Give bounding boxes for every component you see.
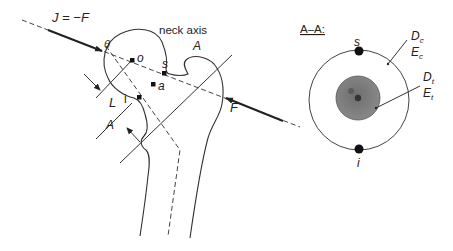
axes xyxy=(22,20,300,236)
section-line-a-a xyxy=(120,55,232,163)
joint-force-label: J = −F xyxy=(51,10,90,25)
section-center-marker xyxy=(355,95,361,101)
cortical-d-label: Dc xyxy=(411,29,424,45)
theta-label: θ xyxy=(104,38,110,50)
cortical-leader-dot xyxy=(387,63,389,65)
point-o-marker xyxy=(130,58,135,63)
length-l-label: L xyxy=(109,95,116,110)
joint-force-arrow xyxy=(48,30,102,51)
point-i-label: i xyxy=(124,92,127,106)
section-line xyxy=(84,55,232,163)
muscle-force-label: F xyxy=(230,100,239,115)
section-title: A–A: xyxy=(300,23,325,35)
cortical-e-label: Ec xyxy=(411,45,423,61)
point-i-marker xyxy=(137,95,142,100)
trabecular-texture-spot xyxy=(348,88,354,94)
point-s-label: s xyxy=(162,57,168,71)
l-dimension-arrow-top xyxy=(84,74,100,90)
trabecular-leader-dot xyxy=(375,107,377,109)
femur-diagram: J = −F θ neck axis o s a i A A L F A–A: … xyxy=(0,0,453,251)
point-a-marker xyxy=(151,82,156,87)
trabecular-leader-line xyxy=(376,86,420,108)
cortical-leader-line xyxy=(388,40,407,64)
section-point-i-marker xyxy=(355,145,364,154)
point-o-label: o xyxy=(137,51,144,65)
trabecular-e-label: Et xyxy=(423,86,434,102)
section-a-bottom-label: A xyxy=(105,118,114,132)
l-dimension-arrow-bottom xyxy=(127,128,140,142)
section-a-top-label: A xyxy=(192,39,201,53)
neck-axis-label: neck axis xyxy=(159,24,207,36)
section-point-i-label: i xyxy=(357,156,360,170)
point-s-marker xyxy=(162,71,167,76)
cross-section: A–A: s i Dc Ec Dt Et xyxy=(300,23,435,170)
trabecular-d-label: Dt xyxy=(423,70,435,86)
point-a-label: a xyxy=(158,79,165,93)
section-point-s-label: s xyxy=(354,35,360,49)
